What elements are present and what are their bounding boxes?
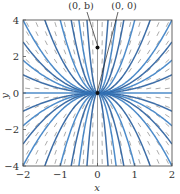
slope-dash [111, 159, 112, 164]
slope-dash [120, 68, 122, 72]
slope-dash [93, 68, 94, 73]
slope-dash [34, 97, 39, 98]
slope-dash [111, 150, 112, 155]
y-tick-label: 2 [13, 51, 19, 62]
slope-dash [63, 114, 66, 118]
slope-dash [130, 159, 131, 164]
slope-dash [138, 50, 140, 54]
slope-dash [45, 150, 47, 155]
slope-dash [45, 141, 47, 145]
slope-dash [146, 88, 151, 89]
slope-dash [36, 22, 38, 27]
slope-dash [73, 114, 75, 118]
slope-dash [64, 50, 66, 55]
slope-dash [166, 32, 169, 36]
slope-dash [83, 31, 84, 36]
slope-dash [111, 59, 112, 64]
slope-dash [120, 114, 122, 118]
slope-dash [83, 22, 84, 27]
slope-dash [139, 150, 141, 155]
slope-dash [157, 31, 159, 35]
slope-dash [54, 50, 56, 54]
slope-dash [64, 22, 65, 27]
x-tick-label: 2 [169, 169, 175, 180]
slope-dash [165, 97, 170, 98]
slope-dash [166, 141, 169, 145]
slope-dash [120, 132, 121, 137]
marked-point [96, 45, 100, 49]
slope-dash [44, 88, 49, 89]
slope-dash [34, 88, 39, 89]
y-tick-label: −4 [4, 161, 19, 172]
slope-field-figure: −2−1012−4−2024 (0, b)(0, 0) x y [0, 0, 180, 194]
slope-dash [148, 41, 150, 45]
slope-dash [148, 141, 150, 145]
slope-dash [45, 50, 48, 54]
slope-dash [35, 132, 38, 136]
slope-dash [148, 31, 150, 36]
slope-dash [130, 22, 131, 27]
marked-point [96, 91, 100, 95]
slope-dash [44, 97, 49, 98]
slope-dash [63, 68, 66, 72]
x-tick-label: 0 [94, 169, 100, 180]
slope-dash [83, 40, 84, 45]
annotation-label: (0, b) [68, 0, 94, 11]
slope-dash [156, 88, 161, 89]
slope-dash [83, 59, 84, 64]
slope-dash [25, 88, 30, 89]
slope-dash [64, 132, 66, 137]
slope-dash [138, 132, 140, 136]
slope-dash [74, 22, 75, 27]
slope-dash [157, 159, 159, 164]
slope-dash [138, 59, 141, 63]
slope-dash [74, 50, 75, 55]
slope-dash [129, 50, 131, 55]
slope-dash [148, 150, 150, 155]
slope-dash [111, 141, 112, 146]
slope-dash [83, 150, 84, 155]
slope-dash [83, 122, 84, 127]
x-axis-label: x [94, 182, 100, 193]
annotation-label: (0, 0) [111, 0, 137, 11]
slope-dash [74, 132, 75, 137]
slope-dash [26, 114, 30, 117]
y-tick-label: 4 [13, 15, 19, 26]
slope-dash [165, 88, 170, 89]
slope-dash [139, 159, 140, 164]
y-tick-label: 0 [13, 88, 19, 99]
slope-dash [83, 159, 84, 164]
slope-dash [129, 114, 132, 118]
slope-dash [111, 122, 112, 127]
slope-dash [165, 69, 169, 72]
slope-dash [25, 106, 30, 108]
slope-dash [55, 31, 57, 36]
slope-dash [35, 50, 38, 54]
slope-dash [26, 150, 29, 154]
slope-dash [147, 132, 150, 136]
slope-dash [55, 159, 56, 164]
slope-dash [138, 123, 141, 127]
slope-dash [55, 22, 56, 27]
slope-dash [54, 59, 57, 63]
slope-dash [139, 31, 141, 36]
y-axis-label: y [0, 93, 10, 100]
slope-dash [26, 69, 30, 72]
slope-dash [54, 123, 57, 127]
slope-dash [165, 106, 170, 108]
slope-dash [120, 50, 121, 55]
slope-dash [55, 150, 57, 155]
slope-dash [166, 41, 169, 45]
slope-dash [156, 97, 161, 98]
slope-dash [166, 150, 169, 154]
slope-dash [129, 68, 132, 72]
slope-dash [146, 97, 151, 98]
slope-dash [165, 78, 170, 80]
slope-dash [157, 150, 159, 154]
slope-dash [73, 68, 75, 72]
slope-dash [147, 50, 150, 54]
slope-dash [36, 31, 38, 35]
slope-dash [74, 159, 75, 164]
slope-dash [157, 50, 160, 54]
slope-dash [45, 132, 48, 136]
